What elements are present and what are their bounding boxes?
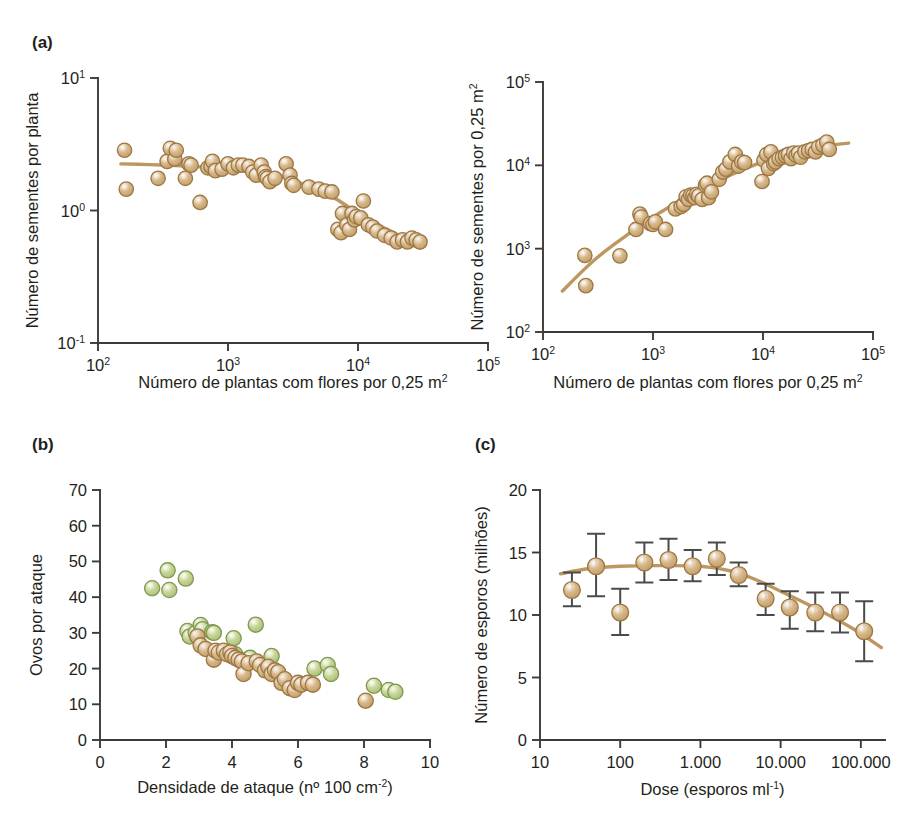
data-point: [737, 155, 751, 169]
panel-b-ytick-label: 30: [69, 624, 87, 642]
panel-a-right: 102103104105102103104105Número de planta…: [467, 72, 885, 391]
panel-a-right-fit-curve: [562, 143, 848, 291]
panel-a-right-ytick-label: 104: [506, 155, 530, 174]
data-point: [248, 617, 263, 632]
data-point: [708, 550, 725, 567]
panel-c-xtick-label: 100: [606, 753, 634, 771]
panel-a-left-ytick-label: 100: [61, 201, 85, 220]
data-point: [117, 143, 131, 157]
data-point: [305, 677, 320, 692]
scientific-figure-svg: (a)10-1100101102103104105Número de plant…: [0, 0, 913, 820]
panel-a-right-series-sementes-por-0-25-m-: [578, 135, 837, 293]
panel-c-xtick-label: 1.000: [680, 753, 721, 771]
data-point: [151, 171, 165, 185]
panel-c-xtick-label: 10.000: [755, 753, 805, 771]
data-point: [613, 249, 627, 263]
panel-c-fit-curve: [560, 566, 881, 648]
panel-a-left-ytick-label: 10-1: [57, 333, 85, 352]
panel-c-xtick-label: 10: [531, 753, 549, 771]
panel-a-right-ytick-label: 105: [506, 72, 530, 91]
figure-root: (a)10-1100101102103104105Número de plant…: [0, 0, 913, 820]
data-point: [226, 631, 241, 646]
panel-b-ytick-label: 20: [69, 660, 87, 678]
panel-c-ytick-label: 0: [518, 731, 527, 749]
data-point: [184, 158, 198, 172]
panel-c-panel-label: (c): [475, 435, 496, 454]
panel-b-xtick-label: 0: [95, 753, 104, 771]
panel-a-left-axis-spine: [98, 78, 488, 343]
panel-c: (c)05101520101001.00010.000100.000Dose (…: [472, 435, 891, 798]
panel-b-x-axis-title: Densidade de ataque (nº 100 cm-2): [137, 777, 393, 796]
data-point: [268, 171, 282, 185]
data-point: [658, 222, 672, 236]
data-point: [807, 604, 824, 621]
panel-a-right-xtick-label: 103: [641, 344, 665, 363]
data-point: [358, 693, 373, 708]
data-point: [755, 174, 769, 188]
data-point: [169, 143, 183, 157]
panel-a-right-x-axis-title: Número de plantas com flores por 0,25 m2: [553, 372, 863, 391]
panel-b-ytick-label: 40: [69, 588, 87, 606]
panel-a-left-xtick-label: 105: [476, 355, 500, 374]
panel-b: (b)0102030405060700246810Densidade de at…: [27, 435, 439, 796]
panel-b-panel-label: (b): [32, 435, 54, 454]
panel-c-ytick-label: 20: [509, 481, 527, 499]
panel-b-xtick-label: 6: [293, 753, 302, 771]
panel-a-right-ytick-label: 102: [506, 322, 530, 341]
panel-b-axis-spine: [100, 490, 430, 740]
data-point: [856, 623, 873, 640]
data-point: [325, 185, 339, 199]
panel-a-left-xtick-label: 103: [216, 355, 240, 374]
panel-c-y-axis-title: Número de esporos (milhões): [472, 506, 490, 723]
panel-b-series-marrom: [190, 629, 374, 708]
data-point: [356, 194, 370, 208]
data-point: [684, 558, 701, 575]
panel-a-left: (a)10-1100101102103104105Número de plant…: [23, 33, 500, 391]
data-point: [636, 554, 653, 571]
data-point: [178, 171, 192, 185]
panel-c-ytick-label: 15: [509, 544, 527, 562]
data-point: [564, 582, 581, 599]
panel-b-xtick-label: 2: [161, 753, 170, 771]
panel-c-x-axis-title: Dose (esporos ml-1): [640, 779, 784, 798]
panel-a-right-xtick-label: 105: [861, 344, 885, 363]
panel-a-right-ytick-label: 103: [506, 239, 530, 258]
data-point: [730, 567, 747, 584]
panel-a-left-ytick-label: 101: [61, 68, 85, 87]
panel-b-xtick-label: 8: [359, 753, 368, 771]
data-point: [119, 182, 133, 196]
panel-b-xtick-label: 4: [227, 753, 236, 771]
data-point: [832, 604, 849, 621]
data-point: [193, 195, 207, 209]
panel-b-ytick-label: 60: [69, 517, 87, 535]
data-point: [704, 185, 718, 199]
data-point: [579, 278, 593, 292]
data-point: [178, 571, 193, 586]
panel-a-left-x-axis-title: Número de plantas com flores por 0,25 m2: [138, 372, 448, 391]
data-point: [366, 678, 381, 693]
data-point: [145, 581, 160, 596]
data-point: [286, 178, 300, 192]
panel-c-series-esporos: [564, 550, 873, 639]
data-point: [757, 590, 774, 607]
panel-b-ytick-label: 0: [78, 731, 87, 749]
data-point: [323, 666, 338, 681]
panel-a-left-xtick-label: 104: [346, 355, 370, 374]
data-point: [588, 558, 605, 575]
panel-a-left-panel-label: (a): [32, 33, 53, 52]
panel-a-left-y-axis-title: Número de sementes por planta: [23, 92, 41, 329]
data-point: [413, 235, 427, 249]
panel-b-ytick-label: 70: [69, 481, 87, 499]
panel-c-xtick-label: 100.000: [831, 753, 891, 771]
panel-b-ytick-label: 50: [69, 552, 87, 570]
panel-b-y-axis-title: Ovos por ataque: [27, 554, 45, 676]
panel-b-xtick-label: 10: [421, 753, 439, 771]
panel-a-right-xtick-label: 104: [751, 344, 775, 363]
data-point: [822, 142, 836, 156]
panel-a-right-xtick-label: 102: [531, 344, 555, 363]
data-point: [781, 599, 798, 616]
panel-b-ytick-label: 10: [69, 695, 87, 713]
panel-a-left-xtick-label: 102: [86, 355, 110, 374]
data-point: [206, 625, 221, 640]
data-point: [160, 563, 175, 578]
